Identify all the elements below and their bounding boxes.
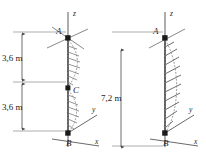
left-dimension-label-1: 3,6 m — [2, 53, 23, 63]
right-axis-label-x: x — [193, 137, 198, 146]
left-load-hatch-lower — [68, 95, 79, 129]
right-diagram-group: z y x — [101, 9, 198, 148]
right-point-label-A: A — [152, 26, 159, 36]
left-point-label-B: B — [66, 138, 72, 148]
left-axis-label-x: x — [94, 137, 99, 146]
right-axis-label-z: z — [169, 9, 173, 18]
left-axis-label-y: y — [91, 105, 96, 114]
right-dimension-label: 7,2 m — [101, 93, 122, 103]
right-node-A — [162, 35, 167, 40]
figure-container: z — [0, 0, 206, 159]
left-dimension-label-2: 3,6 m — [2, 102, 23, 112]
left-node-A — [65, 35, 70, 40]
left-diagram-group: z — [2, 9, 99, 148]
right-node-B — [162, 130, 167, 135]
right-point-label-B: B — [163, 138, 169, 148]
left-node-C — [65, 85, 70, 90]
left-point-label-C: C — [73, 85, 80, 95]
right-x-axis-line — [150, 139, 198, 146]
structural-diagram-svg: z — [0, 0, 206, 159]
left-axis-label-z: z — [72, 9, 76, 18]
right-axis-label-y: y — [188, 105, 193, 114]
left-node-B — [65, 130, 70, 135]
left-point-label-A: A — [55, 26, 62, 36]
left-y-axis-line — [68, 115, 97, 133]
left-load-hatch-upper — [68, 46, 80, 85]
right-load-hatch — [165, 42, 181, 128]
left-x-axis-line — [52, 139, 99, 146]
